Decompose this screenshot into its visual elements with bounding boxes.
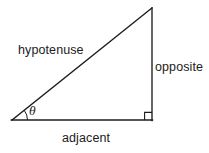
theta-angle-arc — [24, 111, 27, 120]
right-angle-marker-icon — [145, 112, 152, 120]
theta-angle-label: θ — [29, 104, 36, 118]
opposite-label: opposite — [155, 61, 203, 74]
triangle-diagram: hypotenuse opposite adjacent θ — [0, 0, 209, 153]
adjacent-label: adjacent — [62, 132, 110, 145]
hypotenuse-label: hypotenuse — [18, 44, 84, 57]
